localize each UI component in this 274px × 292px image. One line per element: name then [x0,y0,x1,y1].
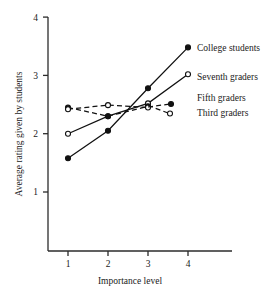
legend-marker-third [168,111,173,116]
y-axis-ticks: 1234 [33,13,48,198]
data-point [186,72,191,77]
x-axis-title: Importance level [98,276,162,286]
data-point [146,86,151,91]
legend-connector-third [148,106,168,114]
legend-marker-fifth [169,102,174,107]
y-axis-tick-label: 4 [33,13,38,23]
x-axis-tick-label: 3 [146,259,151,269]
y-axis-tick-label: 3 [33,71,38,81]
data-point [66,107,71,112]
data-point [66,156,71,161]
data-point [186,45,191,50]
line-chart: 12341234Importance levelAverage rating g… [0,0,274,292]
legend-label-2: Seventh graders [197,72,258,82]
legend-label-4: Third graders [197,108,249,118]
chart-canvas: 12341234Importance levelAverage rating g… [0,0,274,292]
y-axis-tick-label: 2 [33,129,38,139]
x-axis-tick-label: 2 [106,259,111,269]
data-point [106,103,111,108]
legend-label-3: Fifth graders [197,93,246,103]
data-point [66,131,71,136]
x-axis-ticks: 1234 [66,251,191,269]
data-point [106,114,111,119]
series-4 [66,103,151,112]
legend-label-1: College students [197,43,260,53]
x-axis-tick-label: 1 [66,259,71,269]
chart-legend: College studentsSeventh gradersFifth gra… [148,43,260,119]
x-axis-tick-label: 4 [186,259,191,269]
y-axis-title: Average rating given by students [14,71,24,196]
data-point [106,128,111,133]
y-axis-tick-label: 1 [33,187,38,197]
